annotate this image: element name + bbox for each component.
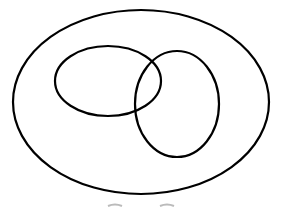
venn-diagram (0, 0, 282, 208)
cut-off-label-fragment (108, 205, 174, 207)
set-a-ellipse (55, 46, 161, 116)
universal-set-ellipse (13, 10, 269, 194)
